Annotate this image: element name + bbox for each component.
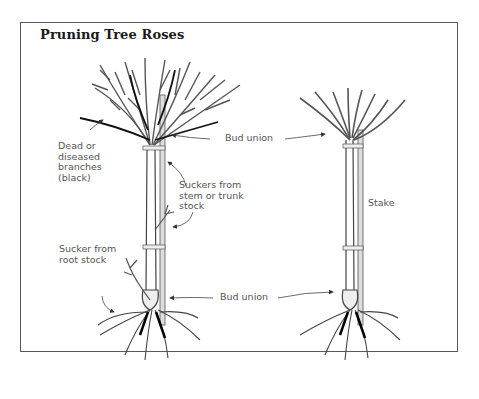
bud-union-top-leader-left [172,135,210,139]
right-tree [300,88,405,360]
label-sucker-root: Sucker from root stock [59,244,116,265]
label-bud-union-top: Bud union [225,133,273,144]
bud-union-bottom-leader-right [278,292,333,298]
bud-union-top-leader-right [285,134,325,139]
suckers-stem-leader-2 [173,212,193,227]
sucker-root-leader [102,296,114,312]
label-stake: Stake [368,198,395,209]
label-suckers-stem: Suckers from stem or trunk stock [179,180,244,212]
label-bud-union-bottom: Bud union [220,292,268,303]
label-dead-branches: Dead or diseased branches (black) [58,141,102,183]
bud-union-bottom-leader-left [170,298,213,299]
